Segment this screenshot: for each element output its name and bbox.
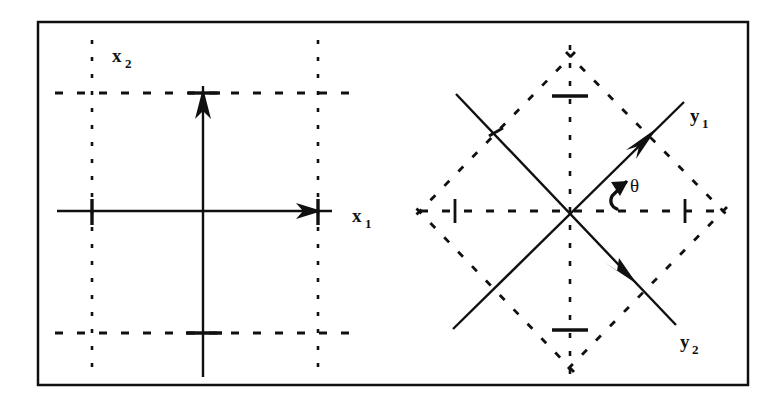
axis-label-y1: y 1	[690, 105, 709, 131]
diamond-edge-top-right	[566, 52, 728, 216]
coordinate-frames-diagram: x 2 x 1	[0, 0, 780, 414]
figure-border	[38, 22, 748, 385]
axis-label-y2: y 2	[680, 331, 699, 357]
axis-label-x2-base: x	[112, 45, 122, 66]
axis-label-x1-subscript: 1	[365, 216, 372, 231]
figure-container: x 2 x 1	[0, 0, 780, 414]
diamond-edge-bottom-right	[565, 207, 727, 372]
axis-label-y2-subscript: 2	[692, 342, 699, 357]
axis-y2-line	[456, 94, 676, 325]
right-panel-rotated-frame: θ y 1 y 2	[415, 45, 728, 382]
axis-y2-arrowhead	[604, 258, 637, 284]
axis-label-y1-subscript: 1	[702, 116, 709, 131]
axis-label-x2: x 2	[112, 45, 132, 71]
axis-label-x1-base: x	[352, 205, 362, 226]
left-panel-original-frame: x 2 x 1	[55, 40, 372, 377]
axis-label-y2-base: y	[680, 331, 690, 352]
axis-label-x1: x 1	[352, 205, 372, 231]
axis-label-x2-subscript: 2	[125, 56, 132, 71]
axis-label-y1-base: y	[690, 105, 700, 126]
angle-label-theta: θ	[630, 175, 639, 196]
